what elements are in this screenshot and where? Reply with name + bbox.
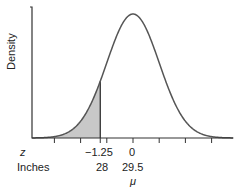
axes: [30, 7, 233, 138]
inches-value-28: 28: [96, 161, 108, 173]
z-value-neg125: −1.25: [85, 146, 113, 158]
density-curve: [32, 14, 233, 138]
y-axis-label: Density: [5, 33, 17, 70]
inches-value-mean: 29.5: [122, 161, 143, 173]
shaded-area: [33, 81, 100, 138]
z-row-label: z: [20, 146, 26, 158]
mu-label: μ: [130, 175, 136, 187]
inches-row-label: Inches: [17, 161, 49, 173]
z-value-0: 0: [129, 146, 135, 158]
